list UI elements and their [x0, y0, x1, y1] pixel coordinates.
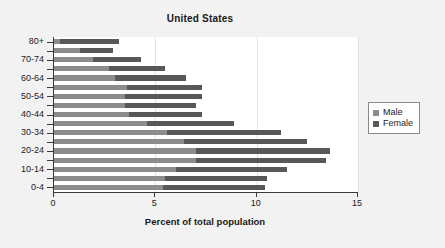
chart-legend: MaleFemale — [368, 102, 420, 134]
x-axis-tick-label: 0 — [38, 198, 68, 208]
x-axis-tick — [154, 192, 155, 197]
y-axis-tick-label: 50-54 — [21, 92, 44, 101]
x-axis-tick-label: 10 — [241, 198, 271, 208]
legend-swatch-icon — [373, 110, 379, 116]
legend-label: Male — [383, 107, 403, 118]
legend-item[interactable]: Female — [373, 118, 413, 129]
x-axis-tick — [357, 192, 358, 197]
y-axis-tick-label: 70-74 — [21, 55, 44, 64]
x-axis-tick-label: 5 — [139, 198, 169, 208]
y-axis-tick-label: 30-34 — [21, 128, 44, 137]
y-axis-tick-label: 80+ — [29, 37, 44, 46]
x-axis-line — [53, 192, 357, 193]
chart-figure: United States 80+70-7460-6450-5440-4430-… — [0, 0, 445, 248]
y-axis-tick-label: 0-4 — [31, 183, 44, 192]
y-axis-tick-label: 10-14 — [21, 165, 44, 174]
legend-item[interactable]: Male — [373, 107, 413, 118]
x-axis-tick — [256, 192, 257, 197]
y-axis-tick-label: 40-44 — [21, 110, 44, 119]
legend-swatch-icon — [373, 121, 379, 127]
x-axis-label: Percent of total population — [53, 216, 357, 227]
x-axis-tick-label: 15 — [342, 198, 372, 208]
x-axis-tick — [53, 192, 54, 197]
y-axis-tick-label: 60-64 — [21, 74, 44, 83]
legend-label: Female — [383, 118, 413, 129]
y-axis-tick-label: 20-24 — [21, 146, 44, 155]
chart-title: United States — [0, 13, 400, 24]
